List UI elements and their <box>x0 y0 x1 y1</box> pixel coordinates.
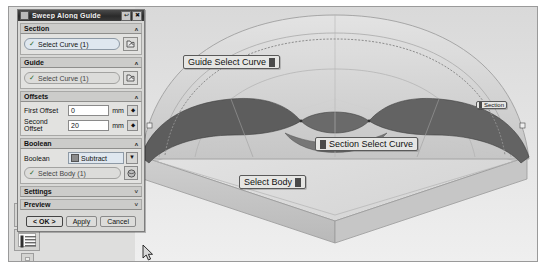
group-header-preview[interactable]: Preview ˅ <box>20 199 142 210</box>
group-header-section[interactable]: Section ʌ <box>20 23 142 34</box>
chevron-up-icon[interactable]: ʌ <box>135 60 138 66</box>
select-body-button[interactable]: ✓ Select Body (1) <box>24 167 121 179</box>
sweep-along-guide-dialog[interactable]: Sweep Along Guide ↩ ✖ Section ʌ ✓ Select… <box>17 9 145 232</box>
first-offset-stepper[interactable]: ⬥ <box>127 105 138 116</box>
second-offset-row: Second Offset 20 mm ⬥ <box>24 118 138 132</box>
first-offset-unit: mm <box>111 107 125 114</box>
first-offset-label: First Offset <box>24 107 66 114</box>
callout-guide-select-curve[interactable]: Guide Select Curve <box>183 55 280 69</box>
group-header-offsets[interactable]: Offsets ʌ <box>20 91 142 102</box>
arrow-cursor <box>142 245 154 261</box>
part-navigator-icon[interactable] <box>14 229 40 251</box>
group-header-guide[interactable]: Guide ʌ <box>20 57 142 68</box>
group-body-guide: ✓ Select Curve (1) <box>20 68 142 89</box>
group-body-section: ✓ Select Curve (1) <box>20 34 142 55</box>
boolean-label: Boolean <box>24 155 66 162</box>
group-title: Section <box>24 25 49 32</box>
second-offset-stepper[interactable]: ⬥ <box>127 120 138 131</box>
history-icon[interactable] <box>21 253 34 262</box>
first-offset-row: First Offset 0 mm ⬥ <box>24 105 138 116</box>
dialog-body: Section ʌ ✓ Select Curve (1) <box>18 21 144 231</box>
cancel-button[interactable]: Cancel <box>100 216 136 227</box>
check-icon: ✓ <box>29 74 35 82</box>
boolean-row: Boolean Subtract ▼ <box>24 152 138 164</box>
close-button[interactable]: ✖ <box>132 11 142 21</box>
callout-label: Guide Select Curve <box>188 57 266 67</box>
select-body-label: Select Body (1) <box>38 170 86 177</box>
group-title: Boolean <box>24 140 52 147</box>
section-curve-pick-icon[interactable] <box>123 37 138 51</box>
group-title: Preview <box>24 201 50 208</box>
section-marker-icon <box>479 102 482 108</box>
guide-select-curve-label: Select Curve (1) <box>38 75 89 82</box>
solid-body-icon[interactable] <box>124 166 138 180</box>
solid-body-icon <box>295 178 301 187</box>
callout-label: Section Select Curve <box>329 139 413 149</box>
curve-pick-icon <box>269 58 275 67</box>
callout-select-body[interactable]: Select Body <box>239 175 306 189</box>
callout-section-tag[interactable]: Section <box>476 101 507 109</box>
dialog-title: Sweep Along Guide <box>32 12 120 19</box>
second-offset-unit: mm <box>111 122 125 129</box>
dialog-titlebar[interactable]: Sweep Along Guide ↩ ✖ <box>18 10 144 21</box>
ok-button[interactable]: < OK > <box>26 216 63 227</box>
group-header-settings[interactable]: Settings ˅ <box>20 186 142 197</box>
section-select-row: ✓ Select Curve (1) <box>24 37 138 51</box>
boolean-body-row: ✓ Select Body (1) <box>24 166 138 180</box>
second-offset-label: Second Offset <box>24 118 66 132</box>
guide-curve-pick-icon[interactable] <box>123 71 138 85</box>
chevron-down-icon[interactable]: ˅ <box>134 202 138 208</box>
section-select-curve-label: Select Curve (1) <box>38 41 89 48</box>
second-offset-input[interactable]: 20 <box>68 120 109 131</box>
check-icon: ✓ <box>29 40 35 48</box>
section-select-curve-button[interactable]: ✓ Select Curve (1) <box>24 38 120 50</box>
guide-select-row: ✓ Select Curve (1) <box>24 71 138 85</box>
callout-label: Select Body <box>244 177 292 187</box>
first-offset-input[interactable]: 0 <box>68 105 109 116</box>
group-title: Offsets <box>24 93 48 100</box>
boolean-selected-value: Subtract <box>81 155 107 162</box>
check-icon: ✓ <box>29 169 35 177</box>
group-title: Settings <box>24 188 52 195</box>
screenshot-root: Guide Select Curve Section Select Curve … <box>0 0 544 270</box>
group-body-boolean: Boolean Subtract ▼ ✓ Select Body (1) <box>20 149 142 184</box>
chevron-up-icon[interactable]: ʌ <box>135 141 138 147</box>
group-body-offsets: First Offset 0 mm ⬥ Second Offset 20 mm … <box>20 102 142 136</box>
chevron-down-icon[interactable]: ˅ <box>134 189 138 195</box>
boolean-dropdown-arrow-icon[interactable]: ▼ <box>126 152 138 164</box>
callout-section-select-curve[interactable]: Section Select Curve <box>315 137 418 151</box>
model-geometry <box>135 7 537 261</box>
3d-viewport[interactable]: Guide Select Curve Section Select Curve … <box>135 7 537 261</box>
dialog-action-row: < OK > Apply Cancel <box>20 214 142 228</box>
restore-button[interactable]: ↩ <box>121 11 131 21</box>
boolean-select[interactable]: Subtract <box>68 152 124 164</box>
application-frame: Guide Select Curve Section Select Curve … <box>8 6 538 262</box>
group-title: Guide <box>24 59 44 66</box>
curve-pick-icon <box>320 140 326 149</box>
chevron-up-icon[interactable]: ʌ <box>135 94 138 100</box>
subtract-icon <box>71 154 79 162</box>
dialog-menu-icon[interactable] <box>20 11 29 20</box>
chevron-up-icon[interactable]: ʌ <box>135 26 138 32</box>
group-header-boolean[interactable]: Boolean ʌ <box>20 138 142 149</box>
apply-button[interactable]: Apply <box>66 216 98 227</box>
callout-label: Section <box>484 102 504 108</box>
guide-select-curve-button[interactable]: ✓ Select Curve (1) <box>24 72 120 84</box>
